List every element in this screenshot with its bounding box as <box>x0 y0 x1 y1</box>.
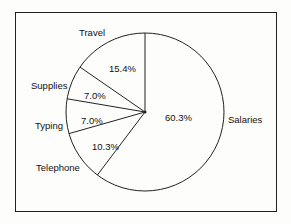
label-typing: Typing <box>35 120 63 131</box>
pie-chart <box>0 0 291 224</box>
label-salaries: Salaries <box>228 114 262 125</box>
percent-salaries: 60.3% <box>165 112 192 123</box>
percent-typing: 7.0% <box>81 115 103 126</box>
label-supplies: Supplies <box>31 80 67 91</box>
label-telephone: Telephone <box>36 162 80 173</box>
percent-supplies: 7.0% <box>84 90 106 101</box>
label-travel: Travel <box>79 27 105 38</box>
percent-travel: 15.4% <box>109 63 136 74</box>
percent-telephone: 10.3% <box>92 141 119 152</box>
slice-divider-typing-supplies <box>67 99 145 112</box>
pie-center <box>144 111 147 114</box>
